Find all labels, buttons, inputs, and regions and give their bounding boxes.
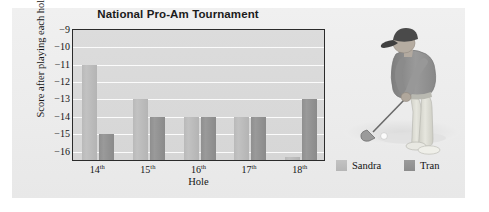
- y-tick-label: −10: [54, 41, 70, 52]
- y-tick-label: −14: [54, 110, 70, 121]
- x-tick-label: 16th: [191, 163, 206, 175]
- y-tick-label: −15: [54, 128, 70, 139]
- bar-sandra-18th: [285, 157, 300, 161]
- chart-title: National Pro-Am Tournament: [18, 8, 338, 20]
- bar-sandra-14th: [82, 65, 97, 161]
- y-tick-label: −12: [54, 76, 70, 87]
- bar-chart: National Pro-Am Tournament Score after p…: [18, 4, 338, 186]
- x-tick-label: 18th: [292, 163, 307, 175]
- y-axis-ticks: −9−10−11−12−13−14−15−16: [32, 29, 70, 161]
- y-tick-label: −11: [55, 58, 70, 69]
- bar-tran-14th: [99, 134, 114, 161]
- x-axis-label: Hole: [72, 176, 325, 187]
- x-tick-label: 15th: [140, 163, 155, 175]
- bar-sandra-17th: [234, 117, 249, 161]
- screenshot-root: National Pro-Am Tournament Score after p…: [0, 0, 489, 212]
- bar-tran-18th: [302, 99, 317, 161]
- bar-series-container: [73, 30, 324, 160]
- bar-tran-17th: [251, 117, 266, 161]
- bar-sandra-15th: [133, 99, 148, 161]
- y-tick-label: −9: [59, 24, 70, 35]
- bar-sandra-16th: [184, 117, 199, 161]
- golfer-photo: [340, 14, 465, 164]
- x-tick-label: 14th: [90, 163, 105, 175]
- plot-area: [72, 29, 325, 161]
- bar-tran-16th: [201, 117, 216, 161]
- y-tick-label: −16: [54, 145, 70, 156]
- y-tick-label: −13: [54, 93, 70, 104]
- bar-tran-15th: [150, 117, 165, 161]
- x-tick-label: 17th: [242, 163, 257, 175]
